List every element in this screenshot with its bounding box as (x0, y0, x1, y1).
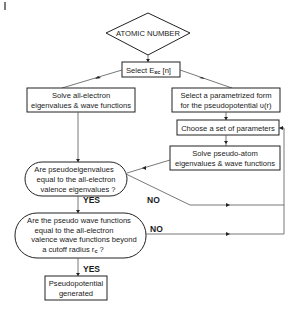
all-electron-node: Solve all-electron eigenvalues & wave fu… (27, 88, 135, 112)
decision-2-node: Are the pseudo wave functions equal to t… (15, 213, 146, 258)
all-electron-line-2: eigenvalues & wave functions (31, 101, 131, 110)
select-exc-label: Select Exc [n] (126, 66, 171, 76)
parametrized-line-2: for the pseudopotential υ(r) (180, 101, 272, 110)
edge-feedback-to-choose (279, 128, 284, 234)
decision-1-line-2: equal to the all-electron (37, 175, 116, 184)
decision-2-line-1: Are the pseudo wave functions (27, 216, 131, 225)
result-line-2: generated (59, 289, 93, 298)
decision-1-line-3: valence eigenvalues ? (40, 185, 115, 194)
solve-pseudo-line-1: Solve pseudo-atom (192, 149, 257, 158)
start-node: ATOMIC NUMBER (106, 13, 190, 55)
result-line-1: Pseudopotential (49, 279, 104, 288)
arrow-head (226, 203, 230, 207)
start-label: ATOMIC NUMBER (116, 29, 180, 38)
result-node: Pseudopotential generated (45, 276, 107, 300)
edge-exc-to-parametrized (180, 70, 232, 88)
select-exc-node: Select Exc [n] (122, 62, 180, 77)
arrow-head (224, 141, 228, 144)
flowchart: ATOMIC NUMBER Select Exc [n] Solve all-e… (0, 0, 294, 313)
parametrized-line-1: Select a parametrized form (180, 91, 271, 100)
edge-exc-to-all-electron (62, 70, 122, 88)
decision-2-line-3: valence wave functions beyond (31, 235, 137, 244)
arrow-head (142, 166, 146, 170)
solve-pseudo-node: Solve pseudo-atom eigenvalues & wave fun… (170, 146, 280, 170)
parametrized-form-node: Select a parametrized form for the pseud… (172, 88, 280, 112)
no-label-2: NO (150, 224, 163, 234)
choose-params-label: Choose a set of parameters (181, 124, 275, 133)
all-electron-line-1: Solve all-electron (52, 91, 110, 100)
no-label-1: NO (147, 195, 160, 205)
decision-1-line-1: Are pseudoeigenvalues (34, 165, 114, 174)
choose-params-node: Choose a set of parameters (177, 120, 279, 135)
decision-2-line-2: equal to the all-electron (35, 226, 114, 235)
decision-1-node: Are pseudoeigenvalues equal to the all-e… (25, 162, 127, 196)
yes-label-1: YES (83, 195, 100, 205)
arrow-head (279, 126, 283, 130)
edge-solve-pseudo-to-decision-1 (127, 160, 170, 173)
arrow-head (226, 232, 230, 236)
yes-label-2: YES (83, 264, 100, 274)
solve-pseudo-line-2: eigenvalues & wave functions (175, 159, 275, 168)
